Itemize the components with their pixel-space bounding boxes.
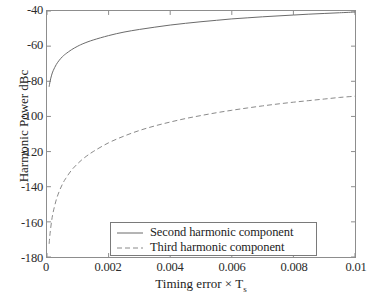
legend-item-third-harmonic: Third harmonic component [111,240,316,255]
x-tick-label: 0.002 [94,261,121,274]
x-tick-label: 0 [43,261,49,274]
x-axis-title: Timing error × Ts [46,276,356,294]
y-axis-tick-marks [47,11,355,257]
x-tick-label: 0.004 [156,261,183,274]
legend-label-third-harmonic: Third harmonic component [150,241,284,254]
x-tick-label: 0.006 [218,261,245,274]
x-axis-title-subscript: s [243,284,247,294]
series-second-harmonic-line [49,12,355,87]
x-tick-label: 0.008 [280,261,307,274]
plot-area [46,10,356,258]
legend-key-solid-line-icon [116,228,144,238]
legend-key-dashed-line-icon [116,243,144,253]
x-axis-title-text: Timing error × T [155,276,243,291]
x-axis-tick-marks [47,11,355,257]
figure-canvas: -40-60-80-100-120-140-160-180 Harmonic P… [0,0,371,297]
legend-item-second-harmonic: Second harmonic component [111,225,316,240]
y-axis-title: Harmonic Power dBc [16,26,32,226]
y-tick-label: -40 [27,4,43,17]
plot-svg [47,11,355,257]
legend-box: Second harmonic component Third harmonic… [110,222,317,256]
x-tick-label: 0.01 [345,261,366,274]
y-tick-label: -180 [21,252,43,265]
legend-label-second-harmonic: Second harmonic component [150,226,293,239]
